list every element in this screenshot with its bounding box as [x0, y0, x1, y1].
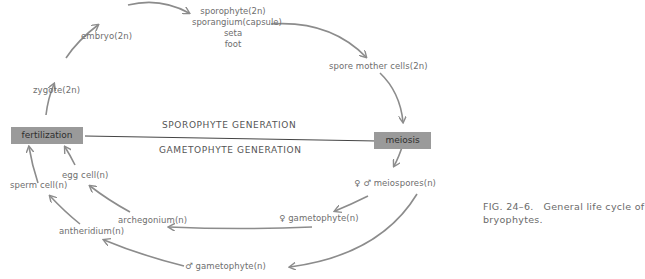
- foot-label: foot: [192, 39, 274, 50]
- zygote-label: zygote(2n): [33, 85, 80, 95]
- meiospores-label: ♀ ♂ meiospores(n): [354, 178, 436, 188]
- sporophyte-title: sporophyte(2n): [192, 6, 274, 17]
- arrow-sperm-cell-to-fertilization: [29, 147, 38, 183]
- egg-cell-label: egg cell(n): [62, 170, 108, 180]
- fertilization-box: fertilization: [11, 127, 83, 144]
- arrow-female-gametophyte-to-archegonium: [169, 227, 312, 229]
- sperm-cell-label: sperm cell(n): [10, 180, 67, 190]
- generation-divider-line: [85, 136, 377, 141]
- figure-caption: FIG. 24–6. General life cycle of bryophy…: [483, 200, 645, 226]
- arrow-meiospores-to-male-gametophyte: [290, 194, 417, 267]
- antheridium-label: antheridium(n): [59, 226, 124, 236]
- arrow-meiospores-to-female-gametophyte: [335, 196, 368, 211]
- seta-label: seta: [192, 28, 274, 39]
- arrow-antheridium-to-sperm-cell: [50, 196, 80, 224]
- female-gametophyte-label: ♀ gametophyte(n): [279, 213, 359, 223]
- arrow-egg-cell-to-fertilization: [65, 147, 75, 165]
- archegonium-label: archegonium(n): [118, 215, 187, 225]
- sporophyte-stack: sporophyte(2n) sporangium(capsule) seta …: [192, 6, 274, 50]
- arrow-archegonium-to-egg-cell: [90, 186, 130, 212]
- arrow-spore-mother-cells-to-meiosis: [380, 73, 403, 122]
- arrow-male-gametophyte-to-antheridium: [104, 240, 184, 266]
- sporangium-label: sporangium(capsule): [192, 17, 274, 28]
- arrow-embryo-to-sporophyte: [128, 2, 189, 13]
- caption-line-2: bryophytes.: [483, 213, 645, 226]
- embryo-label: embryo(2n): [81, 31, 132, 41]
- meiosis-box: meiosis: [374, 132, 431, 149]
- arrow-sporangium-to-spore-mother-cells: [271, 24, 366, 57]
- sporophyte-generation-label: SPOROPHYTE GENERATION: [162, 120, 296, 130]
- caption-line-1: FIG. 24–6. General life cycle of: [483, 200, 645, 213]
- spore-mother-cells-label: spore mother cells(2n): [329, 61, 428, 71]
- gametophyte-generation-label: GAMETOPHYTE GENERATION: [159, 145, 302, 155]
- arrow-zygote-to-embryo: [66, 25, 98, 58]
- male-gametophyte-label: ♂ gametophyte(n): [185, 261, 266, 271]
